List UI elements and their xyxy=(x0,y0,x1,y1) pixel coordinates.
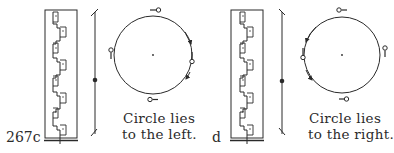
pin-top-d xyxy=(337,8,347,12)
figure-label-d: d xyxy=(212,130,221,144)
caption-c-line2: to the left. xyxy=(122,127,197,142)
pin-left-c xyxy=(109,48,113,59)
pin-bottom-c xyxy=(148,97,158,101)
staircase-strip-c xyxy=(44,10,78,144)
rotation-circle-c xyxy=(109,8,194,102)
caption-d-line2: to the right. xyxy=(308,127,394,142)
axis-dot-c xyxy=(93,78,98,83)
center-point-d xyxy=(341,54,343,56)
pin-top-c xyxy=(150,8,161,12)
center-point-c xyxy=(152,54,154,56)
staircase-strip-d xyxy=(230,10,264,144)
axis-line-d xyxy=(279,9,285,135)
figure-label-c: 267c xyxy=(6,130,41,144)
pin-bottom-d xyxy=(339,97,349,101)
caption-d-line1: Circle lies xyxy=(309,111,381,126)
rotation-circle-d xyxy=(301,8,387,101)
pin-right-d xyxy=(383,46,387,57)
pin-right-c xyxy=(190,52,194,64)
axis-line-c xyxy=(91,9,98,136)
caption-c-line1: Circle lies xyxy=(123,111,195,126)
axis-dot-d xyxy=(280,79,285,84)
